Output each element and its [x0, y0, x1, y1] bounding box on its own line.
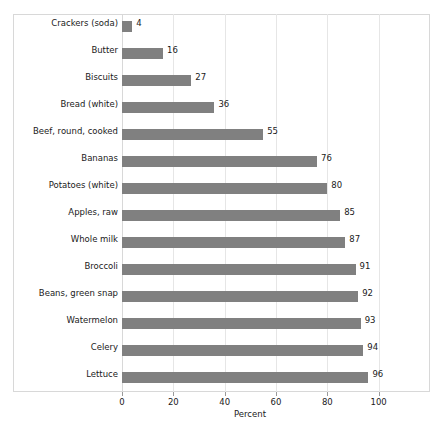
x-tick-label-20: 20 [168, 397, 179, 407]
category-label: Celery [91, 341, 118, 353]
bar [122, 75, 191, 86]
x-tick-label-40: 40 [219, 397, 230, 407]
bar [122, 318, 361, 329]
category-row: Crackers (soda) [13, 14, 118, 41]
category-row: Apples, raw [13, 203, 118, 230]
bar [122, 237, 345, 248]
bar-value-label: 93 [365, 315, 376, 326]
x-tick-mark-60 [276, 392, 277, 396]
bar [122, 48, 163, 59]
bar-row: 93 [122, 311, 430, 338]
bar-row: 16 [122, 41, 430, 68]
bar [122, 129, 263, 140]
bar-value-label: 80 [331, 180, 342, 191]
bar [122, 210, 340, 221]
bar-value-label: 76 [321, 153, 332, 164]
bar-row: 36 [122, 95, 430, 122]
bar-row: 76 [122, 149, 430, 176]
category-label: Crackers (soda) [51, 17, 118, 29]
category-row: Whole milk [13, 230, 118, 257]
bar-chart: Crackers (soda)ButterBiscuitsBread (whit… [0, 0, 443, 423]
bar-row: 87 [122, 230, 430, 257]
x-tick-mark-0 [122, 392, 123, 396]
category-row: Butter [13, 41, 118, 68]
bar-value-label: 16 [167, 45, 178, 56]
x-tick-mark-40 [225, 392, 226, 396]
x-tick-label-0: 0 [119, 397, 124, 407]
category-label: Watermelon [67, 314, 118, 326]
bar-value-label: 87 [349, 234, 360, 245]
category-row: Bread (white) [13, 95, 118, 122]
x-tick-label-60: 60 [271, 397, 282, 407]
category-row: Celery [13, 338, 118, 365]
category-label: Potatoes (white) [49, 179, 118, 191]
category-label: Lettuce [86, 368, 118, 380]
category-row: Beans, green snap [13, 284, 118, 311]
category-label: Bananas [81, 152, 118, 164]
bar [122, 102, 214, 113]
bar [122, 183, 327, 194]
category-label: Broccoli [84, 260, 118, 272]
bar [122, 345, 363, 356]
bar [122, 156, 317, 167]
bar-row: 96 [122, 365, 430, 392]
x-tick-mark-20 [173, 392, 174, 396]
x-axis-title: Percent [234, 409, 266, 419]
bar-row: 91 [122, 257, 430, 284]
bar-value-label: 91 [360, 261, 371, 272]
category-label: Butter [91, 44, 118, 56]
category-label: Beans, green snap [39, 287, 118, 299]
bar [122, 264, 356, 275]
category-axis-labels: Crackers (soda)ButterBiscuitsBread (whit… [13, 14, 118, 392]
category-label: Whole milk [71, 233, 118, 245]
x-tick-label-80: 80 [322, 397, 333, 407]
category-row: Lettuce [13, 365, 118, 392]
bar-value-label: 55 [267, 126, 278, 137]
bar [122, 372, 368, 383]
category-row: Broccoli [13, 257, 118, 284]
bar-value-label: 27 [195, 72, 206, 83]
bar-row: 27 [122, 68, 430, 95]
bar-value-label: 85 [344, 207, 355, 218]
bar-row: 94 [122, 338, 430, 365]
category-row: Potatoes (white) [13, 176, 118, 203]
category-row: Biscuits [13, 68, 118, 95]
category-row: Watermelon [13, 311, 118, 338]
bars-area: 416273655768085879192939496 [122, 14, 430, 392]
bar-row: 80 [122, 176, 430, 203]
bar-row: 4 [122, 14, 430, 41]
bar-value-label: 36 [218, 99, 229, 110]
category-label: Bread (white) [60, 98, 118, 110]
x-tick-label-100: 100 [371, 397, 387, 407]
bar-row: 85 [122, 203, 430, 230]
category-label: Biscuits [85, 71, 118, 83]
bar [122, 291, 358, 302]
bar-value-label: 94 [367, 342, 378, 353]
x-tick-mark-80 [327, 392, 328, 396]
bar-value-label: 96 [372, 369, 383, 380]
category-label: Apples, raw [68, 206, 118, 218]
bar-value-label: 4 [136, 18, 141, 29]
x-tick-mark-100 [379, 392, 380, 396]
bar-row: 55 [122, 122, 430, 149]
category-row: Bananas [13, 149, 118, 176]
category-row: Beef, round, cooked [13, 122, 118, 149]
category-label: Beef, round, cooked [33, 125, 118, 137]
bar-row: 92 [122, 284, 430, 311]
bar [122, 21, 132, 32]
bar-value-label: 92 [362, 288, 373, 299]
